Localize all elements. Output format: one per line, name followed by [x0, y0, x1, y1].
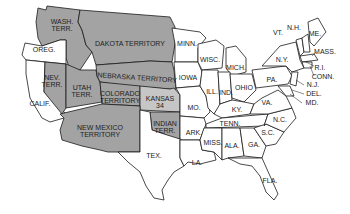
- label-minnesota: MINN.: [177, 40, 197, 47]
- label-nev-terr: NEV.TERR.: [42, 74, 63, 88]
- label-new-jersey: N.J.: [307, 81, 320, 88]
- label-south-carolina: S.C.: [261, 129, 275, 136]
- label-maryland: MD.: [306, 99, 319, 106]
- label-wisconsin: WISC.: [200, 56, 220, 63]
- label-new-hampshire: N.H.: [287, 24, 301, 31]
- label-new-york: N.Y.: [276, 56, 289, 63]
- region-wisconsin: [198, 40, 224, 70]
- label-iowa: IOWA: [179, 74, 198, 81]
- label-kentucky: KY.: [232, 106, 242, 113]
- label-new-mexico-terr: NEW MEXICOTERRITORY: [77, 124, 123, 138]
- label-delaware: DEL.: [306, 90, 322, 97]
- label-louisiana: LA.: [192, 159, 203, 166]
- label-connecticut: CONN.: [312, 73, 335, 80]
- region-dakota-terr: [78, 10, 175, 65]
- label-dakota-terr: DAKOTA TERRITORY: [95, 40, 165, 47]
- region-massachusetts: [300, 54, 318, 62]
- label-mississippi: MISS.: [203, 139, 222, 146]
- label-rhode-island: R.I.: [315, 64, 326, 71]
- label-georgia: GA.: [248, 141, 260, 148]
- label-massachusetts: MASS.: [314, 48, 336, 55]
- label-maine: ME.: [309, 30, 322, 37]
- label-michigan: MICH.: [226, 64, 246, 71]
- label-texas: TEX.: [146, 152, 162, 159]
- label-illinois: ILL.: [206, 88, 218, 95]
- label-tennessee: TENN.: [220, 120, 241, 127]
- label-florida: FLA.: [263, 177, 278, 184]
- label-arkansas: ARK.: [186, 129, 202, 136]
- label-california: CALIF.: [29, 100, 50, 107]
- label-vermont: VT.: [273, 29, 283, 36]
- label-virginia: VA.: [262, 99, 273, 106]
- label-indiana: IND.: [219, 89, 233, 96]
- us-map-1861: WASH.TERR. DAKOTA TERRITORY NEBRASKA TER…: [0, 0, 350, 214]
- label-north-carolina: N.C.: [273, 116, 287, 123]
- label-wash-terr: WASH.TERR.: [51, 18, 74, 32]
- label-missouri: MO.: [187, 104, 200, 111]
- label-oregon: OREG.: [33, 46, 56, 53]
- label-alabama: ALA.: [224, 142, 239, 149]
- label-ohio: OHIO: [235, 84, 253, 91]
- region-michigan: [226, 46, 246, 76]
- label-pennsylvania: PA.: [267, 76, 278, 83]
- label-utah-terr: UTAHTERR.: [72, 84, 93, 98]
- label-colorado-terr: COLORADOTERRITORY: [100, 90, 141, 104]
- label-indian-terr: INDIANTERR.: [153, 120, 177, 134]
